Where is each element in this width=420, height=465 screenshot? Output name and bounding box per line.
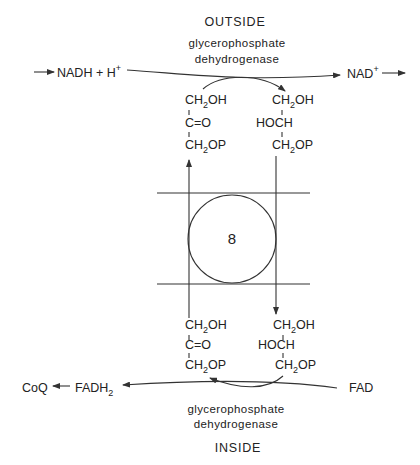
top-dhap-molecule: CH2OH C=O CH2OP — [185, 93, 227, 155]
fadh2-label: FADH2 — [75, 381, 113, 398]
svg-text:CH2OH: CH2OH — [273, 318, 315, 335]
bottom-enzyme-line1: glycerophosphate — [187, 403, 284, 415]
bottom-dhap-molecule: CH2OH C=O CH2OP — [185, 318, 227, 375]
bottom-g3p-molecule: CH2OH HOCH CH2OP — [258, 318, 316, 375]
carrier-number: 8 — [228, 230, 236, 247]
coq-label: CoQ — [22, 381, 48, 395]
svg-text:CH2OH: CH2OH — [272, 93, 314, 110]
svg-text:C=O: C=O — [185, 338, 211, 352]
svg-text:HOCH: HOCH — [256, 116, 293, 130]
svg-text:C=O: C=O — [185, 116, 211, 130]
nad-label: NAD+ — [347, 64, 379, 81]
bottom-enzyme-line2: dehydrogenase — [194, 418, 279, 430]
top-enzyme-line1: glycerophosphate — [188, 37, 285, 49]
top-enzyme-line2: dehydrogenase — [195, 53, 280, 65]
nadh-label: NADH + H+ — [57, 63, 121, 80]
glycerophosphate-shuttle-diagram: OUTSIDE glycerophosphate dehydrogenase N… — [0, 0, 420, 465]
svg-text:CH2OP: CH2OP — [185, 138, 226, 155]
svg-text:CH2OH: CH2OH — [185, 93, 227, 110]
top-g3p-molecule: CH2OH HOCH CH2OP — [256, 93, 314, 155]
svg-text:CH2OP: CH2OP — [272, 138, 313, 155]
outside-label: OUTSIDE — [204, 15, 265, 29]
nadh-to-nad-arrow — [127, 70, 340, 78]
svg-text:CH2OP: CH2OP — [185, 358, 226, 375]
top-conversion-arrow — [203, 77, 285, 91]
inside-label: INSIDE — [215, 441, 261, 455]
svg-text:CH2OH: CH2OH — [185, 318, 227, 335]
svg-text:HOCH: HOCH — [258, 338, 295, 352]
fad-label: FAD — [349, 381, 373, 395]
svg-text:CH2OP: CH2OP — [275, 358, 316, 375]
